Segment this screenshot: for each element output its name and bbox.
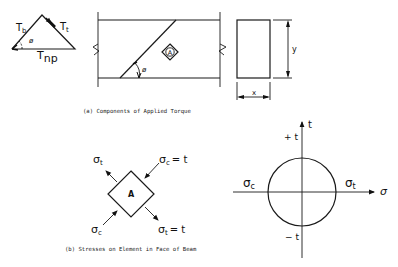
label-tb: Tb (15, 22, 27, 35)
label-tnp: Tnp (36, 49, 58, 65)
x-dimension-label: x (252, 89, 256, 97)
minus-tau-label: − t (285, 232, 299, 242)
torque-stress-diagram: Tb Tt ø Tnp ø A y (0, 0, 398, 267)
sigma-axis-label: σ (380, 185, 388, 198)
beam-angle-label: ø (141, 66, 147, 74)
angle-arc-icon (19, 41, 22, 49)
sigma-c-point-label: σc (243, 176, 255, 191)
stress-element: A σt σc= t σc σt= t (91, 153, 187, 237)
cross-section: y x (237, 20, 297, 100)
vertex-arrow-icon (12, 45, 18, 50)
sigma-t-top-arrow (106, 171, 117, 182)
crack-angle-arc (135, 63, 139, 78)
beam-elevation: ø A (93, 12, 226, 87)
section-rect (237, 20, 270, 78)
sigma-c-top-label: σc= t (159, 153, 187, 167)
stress-element-label: A (128, 190, 135, 199)
plus-tau-label: + t (284, 132, 298, 142)
sigma-t-bottom-arrow (145, 207, 158, 220)
sigma-c-bottom-label: σc (91, 223, 102, 237)
caption-a: (a) Components of Applied Torque (83, 108, 191, 115)
sigma-c-top-arrow (145, 163, 159, 178)
sigma-c-bottom-arrow (103, 211, 117, 225)
element-a-label: A (168, 49, 173, 57)
sigma-t-top-label: σt (93, 153, 103, 167)
mohr-circle: t σ + t − t σc σt (233, 119, 388, 258)
sigma-t-point-label: σt (345, 176, 356, 191)
y-dimension-label: y (292, 45, 297, 54)
label-tt: Tt (59, 21, 69, 34)
tau-axis-label: t (308, 119, 312, 130)
torque-vector-triangle: Tb Tt ø Tnp (12, 15, 75, 65)
caption-b: (b) Stresses on Element in Face of Beam (65, 246, 197, 252)
sigma-t-bottom-label: σt= t (158, 223, 185, 237)
label-angle: ø (28, 37, 34, 45)
